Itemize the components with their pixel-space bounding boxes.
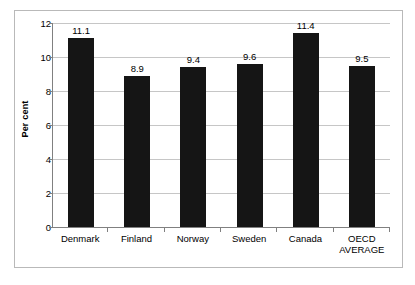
bar-value-label: 11.1 bbox=[72, 25, 90, 36]
x-axis-ticks bbox=[52, 228, 390, 232]
bar-value-label: 9.4 bbox=[187, 54, 200, 65]
bar-sweden[interactable]: 9.6 bbox=[237, 64, 263, 227]
bar-slot: 9.6 bbox=[222, 23, 278, 227]
x-tick-cell bbox=[277, 228, 333, 232]
bar-value-label: 11.4 bbox=[297, 20, 315, 31]
bar-value-label: 9.5 bbox=[355, 53, 368, 64]
x-tick-cell bbox=[52, 228, 108, 232]
y-tick-label: 8 bbox=[46, 86, 51, 97]
bar-norway[interactable]: 9.4 bbox=[180, 67, 206, 227]
x-tick-label-line: OECD bbox=[334, 233, 390, 244]
bar-slot: 11.4 bbox=[278, 23, 334, 227]
y-axis-title-text: Per cent bbox=[20, 100, 30, 137]
y-tick-label: 12 bbox=[40, 18, 51, 29]
y-tick-label: 10 bbox=[40, 52, 51, 63]
x-tick-cell bbox=[165, 228, 221, 232]
x-tick-cell bbox=[221, 228, 277, 232]
bar-denmark[interactable]: 11.1 bbox=[68, 38, 94, 227]
x-tick-label-line: Canada bbox=[277, 233, 333, 244]
x-tick-label-oecd-average: OECD AVERAGE bbox=[334, 233, 390, 255]
x-tick-label-line: Sweden bbox=[221, 233, 277, 244]
x-axis-tick-labels: Denmark Finland Norway Sweden Canada OEC… bbox=[52, 233, 390, 255]
x-tick-label-finland: Finland bbox=[108, 233, 164, 255]
x-tick-cell bbox=[334, 228, 390, 232]
x-tick-label-line: Norway bbox=[165, 233, 221, 244]
bar-value-label: 8.9 bbox=[131, 63, 144, 74]
x-tick-mark bbox=[389, 228, 390, 232]
bar-slot: 11.1 bbox=[53, 23, 109, 227]
bar-slot: 8.9 bbox=[109, 23, 165, 227]
x-tick-label-line: AVERAGE bbox=[334, 244, 390, 255]
bar-finland[interactable]: 8.9 bbox=[124, 76, 150, 227]
x-tick-label-line: Finland bbox=[108, 233, 164, 244]
y-tick-label: 6 bbox=[46, 120, 51, 131]
chart-figure: Per cent 12 10 8 6 4 2 0 bbox=[14, 10, 403, 268]
x-tick-label-norway: Norway bbox=[165, 233, 221, 255]
plot-area: 11.1 8.9 9.4 9.6 11.4 bbox=[52, 23, 390, 228]
x-tick-label-canada: Canada bbox=[277, 233, 333, 255]
y-axis-tick-labels: 12 10 8 6 4 2 0 bbox=[31, 11, 51, 227]
bar-oecd-average[interactable]: 9.5 bbox=[349, 66, 375, 228]
x-tick-label-denmark: Denmark bbox=[52, 233, 108, 255]
bar-slot: 9.4 bbox=[165, 23, 221, 227]
bar-canada[interactable]: 11.4 bbox=[293, 33, 319, 227]
y-tick-label: 2 bbox=[46, 188, 51, 199]
bar-slot: 9.5 bbox=[334, 23, 390, 227]
bars-layer: 11.1 8.9 9.4 9.6 11.4 bbox=[53, 23, 390, 227]
y-tick-label: 4 bbox=[46, 154, 51, 165]
x-tick-label-line: Denmark bbox=[52, 233, 108, 244]
x-tick-label-sweden: Sweden bbox=[221, 233, 277, 255]
y-tick-label: 0 bbox=[46, 222, 51, 233]
x-tick-cell bbox=[108, 228, 164, 232]
bar-value-label: 9.6 bbox=[243, 51, 256, 62]
